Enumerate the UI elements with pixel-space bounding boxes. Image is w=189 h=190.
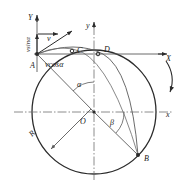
point-marker-C <box>70 49 74 53</box>
velocity-component-vcos-label: vcosα <box>45 60 64 69</box>
point-label-D: D <box>103 45 110 54</box>
angle-beta-label: β <box>109 118 114 127</box>
velocity-label-v: v <box>47 34 51 43</box>
point-label-C: C <box>77 46 83 55</box>
angle-alpha-label: α <box>77 80 82 89</box>
physics-diagram: x y X Y R α β v vsinα <box>0 0 189 190</box>
point-label-O: O <box>80 117 86 126</box>
local-x-axis-label: x <box>165 110 170 119</box>
velocity-component-vsin-label: vsinα <box>24 37 32 52</box>
global-y-axis-label: Y <box>28 13 34 22</box>
radius-R-arrow <box>51 109 91 149</box>
point-marker-B <box>136 153 140 157</box>
point-marker-A <box>35 52 39 56</box>
point-marker-O <box>92 110 95 113</box>
point-label-A: A <box>29 61 35 70</box>
angle-beta-arc <box>116 112 124 133</box>
diagram-canvas: x y X Y R α β v vsinα <box>0 0 189 190</box>
rotation-direction-arrow <box>166 61 172 92</box>
local-y-axis-label: y <box>85 21 90 30</box>
point-label-B: B <box>144 154 149 163</box>
